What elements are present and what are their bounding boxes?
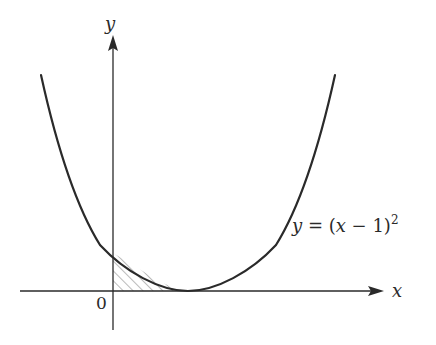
x-axis-label: x — [392, 280, 402, 301]
equation-label: y = (x − 1)2 — [291, 213, 399, 236]
x-axis — [20, 286, 384, 296]
parabola-curve — [41, 75, 335, 291]
shaded-region — [113, 250, 189, 292]
equation-var: x — [336, 215, 346, 236]
graph-figure: y x 0 y = (x − 1)2 — [0, 0, 436, 345]
equation-mid: − 1) — [346, 215, 391, 236]
equation-eq: = ( — [302, 215, 336, 236]
y-axis-label: y — [104, 13, 116, 34]
equation-exponent: 2 — [391, 213, 399, 227]
origin-label: 0 — [96, 293, 107, 313]
